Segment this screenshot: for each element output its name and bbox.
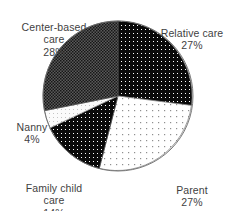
pie-label-relative-care-line1: Relative care bbox=[161, 27, 224, 39]
pie-label-center-based-care-percent: 28% bbox=[2, 46, 106, 59]
pie-label-relative-care: Relative care 27% bbox=[150, 14, 234, 64]
pie-label-family-child-care-line2: care bbox=[44, 194, 65, 206]
pie-label-parent-line1: Parent bbox=[176, 184, 208, 196]
pie-label-nanny: Nanny 4% bbox=[1, 108, 63, 158]
pie-label-nanny-line1: Nanny bbox=[17, 121, 48, 133]
pie-label-family-child-care: Family child care 14% bbox=[2, 169, 106, 211]
pie-label-relative-care-percent: 27% bbox=[150, 39, 234, 52]
pie-label-family-child-care-line1: Family child bbox=[26, 182, 83, 194]
pie-label-family-child-care-percent: 14% bbox=[2, 207, 106, 212]
pie-chart-figure: Center-based care 28% Relative care 27% … bbox=[0, 0, 235, 211]
pie-label-parent: Parent 27% bbox=[152, 171, 232, 211]
pie-label-center-based-care: Center-based care 28% bbox=[2, 8, 106, 71]
pie-label-center-based-care-line1: Center-based bbox=[22, 21, 87, 33]
pie-label-nanny-percent: 4% bbox=[1, 133, 63, 146]
pie-label-center-based-care-line2: care bbox=[44, 33, 65, 45]
pie-label-parent-percent: 27% bbox=[152, 196, 232, 209]
